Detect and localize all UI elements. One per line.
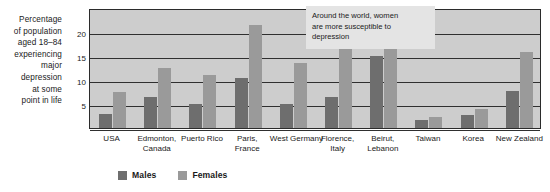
y-axis-label-line: at some xyxy=(0,84,62,96)
y-axis-tick-label: 20 xyxy=(77,30,86,39)
x-axis-label-line: France xyxy=(225,144,270,154)
y-axis-label-line: depression xyxy=(0,72,62,84)
annotation-line: Around the world, women xyxy=(312,11,429,22)
annotation-line: depression xyxy=(312,32,429,43)
annotation-callout: Around the world, women are more suscept… xyxy=(306,6,435,49)
x-axis-label: Florence,Italy xyxy=(315,134,360,153)
bar-females xyxy=(113,92,126,128)
y-axis-tick-label: 5 xyxy=(82,102,86,111)
chart-legend: MalesFemales xyxy=(118,170,228,180)
x-axis-label-line: Beirut, xyxy=(360,134,405,144)
y-axis-label-line: aged 18–84 xyxy=(0,37,62,49)
bar-females xyxy=(520,52,533,128)
x-axis-label-line: Paris, xyxy=(225,134,270,144)
legend-label: Females xyxy=(192,170,227,180)
legend-swatch-icon xyxy=(178,171,187,180)
x-axis-label-line: Florence, xyxy=(315,134,360,144)
bar-males xyxy=(280,104,293,128)
bar-males xyxy=(325,97,338,128)
bar-males xyxy=(506,91,519,128)
bar-females xyxy=(475,109,488,128)
x-axis-label-line: Edmonton, xyxy=(134,134,179,144)
bar-females xyxy=(249,25,262,128)
y-axis-label-line: Percentage xyxy=(0,14,62,26)
bar-group xyxy=(180,10,225,128)
bar-group xyxy=(90,10,135,128)
x-axis-label-line: Taiwan xyxy=(405,134,450,144)
bar-group xyxy=(135,10,180,128)
x-axis-label-line: New Zealand xyxy=(496,134,541,144)
y-axis-tick-label: 10 xyxy=(77,78,86,87)
bar-females xyxy=(339,42,352,128)
bar-females xyxy=(203,75,216,128)
bar-males xyxy=(235,78,248,128)
x-axis-label-line: Canada xyxy=(134,144,179,154)
gridline xyxy=(90,130,540,131)
legend-swatch-icon xyxy=(118,171,127,180)
x-axis-label: Taiwan xyxy=(405,134,450,144)
y-axis-label-line: experiencing xyxy=(0,49,62,61)
bar-males xyxy=(415,120,428,128)
x-axis-label-line: Korea xyxy=(451,134,496,144)
x-axis-label: West Germany xyxy=(270,134,315,144)
x-axis-label: Beirut,Lebanon xyxy=(360,134,405,153)
bar-group xyxy=(226,10,271,128)
bar-males xyxy=(370,56,383,128)
y-axis-label-line: point in life xyxy=(0,95,62,107)
bar-group xyxy=(497,10,542,128)
chart-figure: Percentage of population aged 18–84 expe… xyxy=(0,0,550,192)
x-axis-label: Edmonton,Canada xyxy=(134,134,179,153)
annotation-line: are more susceptible to xyxy=(312,22,429,33)
x-axis-label-line: West Germany xyxy=(270,134,315,144)
legend-item-males[interactable]: Males xyxy=(118,170,156,180)
bar-group xyxy=(452,10,497,128)
y-axis-label-line: of population xyxy=(0,26,62,38)
bar-males xyxy=(99,114,112,128)
x-axis-labels: USAEdmonton,CanadaPuerto RicoParis,Franc… xyxy=(89,134,541,160)
x-axis-label-line: Puerto Rico xyxy=(179,134,224,144)
x-axis-label: Paris,France xyxy=(225,134,270,153)
x-axis-label-line: Lebanon xyxy=(360,144,405,154)
bar-females xyxy=(158,68,171,128)
bar-females xyxy=(429,117,442,128)
bar-males xyxy=(461,115,474,128)
x-axis-label: USA xyxy=(89,134,134,144)
x-axis-label: Puerto Rico xyxy=(179,134,224,144)
y-axis-label-line: major xyxy=(0,60,62,72)
bar-females xyxy=(294,63,307,128)
x-axis-label-line: USA xyxy=(89,134,134,144)
x-axis-label: Korea xyxy=(451,134,496,144)
y-axis-tick-label: 15 xyxy=(77,54,86,63)
bar-males xyxy=(144,97,157,128)
y-axis-label: Percentage of population aged 18–84 expe… xyxy=(0,14,62,107)
legend-label: Males xyxy=(132,170,156,180)
x-axis-label-line: Italy xyxy=(315,144,360,154)
bar-males xyxy=(189,104,202,128)
legend-item-females[interactable]: Females xyxy=(178,170,227,180)
x-axis-label: New Zealand xyxy=(496,134,541,144)
